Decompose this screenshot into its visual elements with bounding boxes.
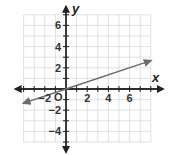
x-axis-label: x <box>151 70 160 85</box>
y-tick-label: 4 <box>55 41 62 53</box>
x-tick-label: 6 <box>127 92 133 104</box>
axes <box>16 7 163 152</box>
x-tick-label: 4 <box>105 92 112 104</box>
y-tick-label: 6 <box>55 19 61 31</box>
origin-label: O <box>54 91 63 103</box>
y-tick-label: −2 <box>48 104 61 116</box>
y-tick-label: 2 <box>55 62 61 74</box>
x-tick-label: −2 <box>39 92 52 104</box>
y-axis-label: y <box>71 1 80 16</box>
grid-lines <box>24 15 151 142</box>
x-tick-label: 2 <box>84 92 90 104</box>
coordinate-plane: −2246642−2−4 x y O <box>0 0 169 155</box>
y-tick-label: −4 <box>48 125 61 137</box>
